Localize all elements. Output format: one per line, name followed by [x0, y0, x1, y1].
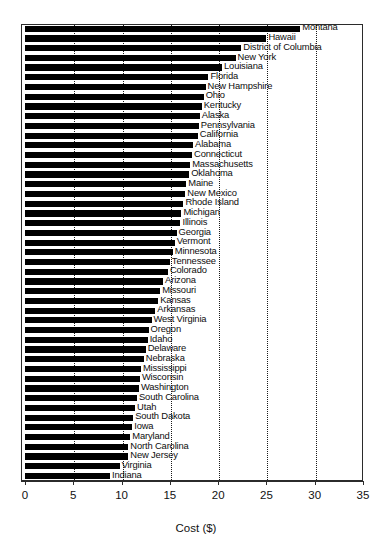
- bar: [25, 366, 141, 372]
- bar-row: Montana: [22, 25, 362, 34]
- bar-row: New Jersey: [22, 453, 362, 462]
- bar: [25, 123, 199, 129]
- x-tick-label: 10: [115, 489, 128, 502]
- bar-row: North Carolina: [22, 443, 362, 452]
- bar: [25, 385, 139, 391]
- bar-row: South Dakota: [22, 414, 362, 423]
- bar: [25, 337, 148, 343]
- bar: [25, 259, 170, 265]
- bar-row: West Virginia: [22, 317, 362, 326]
- bar: [25, 171, 189, 177]
- bar: [25, 152, 192, 158]
- bar: [25, 142, 193, 148]
- bar: [25, 444, 128, 450]
- bar-row: Virginia: [22, 463, 362, 472]
- bar: [25, 55, 236, 61]
- x-tick: [315, 481, 316, 485]
- bar-row: New Hampshire: [22, 83, 362, 92]
- x-tick-label: 5: [70, 489, 76, 502]
- bar: [25, 317, 152, 323]
- bar: [25, 453, 128, 459]
- bar: [25, 424, 132, 430]
- bar-label: Indiana: [112, 470, 142, 480]
- bar-row: Missouri: [22, 288, 362, 297]
- bar: [25, 269, 168, 275]
- bar: [25, 35, 266, 41]
- x-tick-label: 35: [357, 489, 370, 502]
- bar: [25, 249, 173, 255]
- bar: [25, 113, 200, 119]
- bar: [25, 45, 241, 51]
- bar: [25, 103, 202, 109]
- bar: [25, 288, 160, 294]
- bar: [25, 74, 208, 80]
- bar: [25, 434, 130, 440]
- bar: [25, 308, 155, 314]
- bar-row: Oregon: [22, 326, 362, 335]
- bar-row: Iowa: [22, 424, 362, 433]
- bar: [25, 133, 198, 139]
- bar-row: New York: [22, 54, 362, 63]
- x-tick: [73, 481, 74, 485]
- bar: [25, 395, 137, 401]
- bar-label: Montana: [302, 24, 337, 32]
- bar-row: District of Columbia: [22, 44, 362, 53]
- bar: [25, 278, 163, 284]
- x-axis-title: Cost ($): [0, 522, 392, 534]
- bar-row: Utah: [22, 404, 362, 413]
- bar-row: South Carolina: [22, 394, 362, 403]
- bar-row: Maryland: [22, 433, 362, 442]
- plot-area: MontanaHawaiiDistrict of ColumbiaNew Yor…: [21, 24, 363, 481]
- bar-row: Delaware: [22, 346, 362, 355]
- x-tick-label: 0: [22, 489, 28, 502]
- bar: [25, 220, 180, 226]
- bar-chart: MontanaHawaiiDistrict of ColumbiaNew Yor…: [0, 0, 392, 559]
- bar: [25, 94, 204, 100]
- bar: [25, 162, 190, 168]
- bar: [25, 415, 133, 421]
- x-tick: [122, 481, 123, 485]
- bar: [25, 463, 120, 469]
- x-tick: [266, 481, 267, 485]
- bar: [25, 201, 183, 207]
- x-tick: [25, 481, 26, 485]
- x-tick: [218, 481, 219, 485]
- bar-row: Alaska: [22, 113, 362, 122]
- x-tick-label: 30: [308, 489, 321, 502]
- x-tick: [170, 481, 171, 485]
- bar: [25, 473, 110, 479]
- bar-row: Louisiana: [22, 64, 362, 73]
- bar-row: Kentucky: [22, 103, 362, 112]
- bar-row: Idaho: [22, 336, 362, 345]
- bar: [25, 230, 177, 236]
- bar-row: Indiana: [22, 472, 362, 481]
- bar: [25, 84, 206, 90]
- bar-row: Wisconsin: [22, 375, 362, 384]
- bars-layer: MontanaHawaiiDistrict of ColumbiaNew Yor…: [22, 25, 362, 480]
- bar: [25, 26, 300, 32]
- bar: [25, 327, 149, 333]
- bar: [25, 210, 181, 216]
- bar: [25, 64, 222, 70]
- bar: [25, 298, 158, 304]
- bar: [25, 376, 140, 382]
- bar-row: California: [22, 132, 362, 141]
- bar: [25, 191, 185, 197]
- bar-row: Alabama: [22, 142, 362, 151]
- bar: [25, 181, 186, 187]
- bar: [25, 405, 135, 411]
- bar-row: Ohio: [22, 93, 362, 102]
- bar-row: Pennsylvania: [22, 122, 362, 131]
- x-tick-label: 25: [260, 489, 273, 502]
- bar: [25, 240, 175, 246]
- bar: [25, 346, 146, 352]
- bar-row: Florida: [22, 74, 362, 83]
- x-tick: [363, 481, 364, 485]
- bar-row: Mississippi: [22, 365, 362, 374]
- bar: [25, 356, 144, 362]
- bar-row: Nebraska: [22, 356, 362, 365]
- x-tick-label: 20: [212, 489, 225, 502]
- x-tick-label: 15: [163, 489, 176, 502]
